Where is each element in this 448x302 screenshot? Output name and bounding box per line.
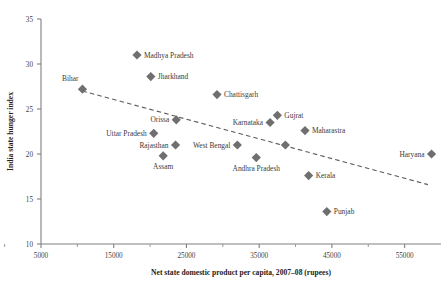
y-axis-tick-label: 20 — [26, 151, 34, 159]
data-point-marker — [212, 90, 221, 99]
data-point-label: Maharastra — [312, 126, 346, 135]
data-point-label: Andhra Pradesh — [233, 164, 281, 173]
x-axis-tick-label: 35000 — [250, 252, 268, 260]
y-axis-tick-label: 25 — [26, 106, 34, 114]
data-point-label: West Bengal — [193, 141, 230, 150]
x-axis-tick-label: 15000 — [105, 252, 123, 260]
data-point-marker — [304, 171, 313, 180]
data-point-marker — [233, 140, 242, 149]
data-point-marker — [322, 207, 331, 216]
data-point-label: Madhya Pradesh — [144, 51, 194, 60]
data-point-label: Karnataka — [233, 118, 264, 127]
data-point-label: Punjab — [334, 207, 355, 216]
data-point-label: Haryana — [400, 150, 426, 159]
data-point-label: Gujrat — [284, 111, 304, 120]
data-point-marker — [427, 149, 436, 158]
data-point-label: Chattisgarh — [224, 90, 258, 99]
data-point-label: Assam — [153, 162, 173, 171]
data-point-marker — [252, 153, 261, 162]
data-point-label: Jharkhand — [158, 72, 189, 81]
x-axis-title: Net state domestic product per capita, 2… — [151, 268, 331, 277]
data-point-marker — [159, 151, 168, 160]
data-point-marker — [265, 118, 274, 127]
data-point-marker — [300, 126, 309, 135]
data-point-marker — [273, 111, 282, 120]
data-point-marker — [171, 140, 180, 149]
scatter-plot: 1015202530355000150002500035000450005500… — [0, 0, 448, 302]
data-point-label: Kerala — [316, 171, 336, 180]
data-point-marker — [132, 50, 141, 59]
data-point-marker — [149, 129, 158, 138]
data-point-label: Rajasthan — [139, 141, 168, 150]
data-point-marker — [281, 140, 290, 149]
chart-figure: 1015202530355000150002500035000450005500… — [0, 0, 448, 302]
data-point-label: Bihar — [62, 74, 79, 83]
y-axis-tick-label: 10 — [26, 241, 34, 249]
y-axis-tick-label: 30 — [26, 61, 34, 69]
x-axis-tick-label: 55000 — [396, 252, 414, 260]
y-axis-title: India state hunger index — [6, 92, 15, 171]
data-point-marker — [146, 72, 155, 81]
data-point-label: Uttar Pradesh — [106, 129, 147, 138]
y-axis-tick-label: 35 — [26, 16, 34, 24]
y-axis-tick-label: 15 — [26, 196, 34, 204]
data-point-label: Orissa — [150, 115, 170, 124]
x-axis-tick-label: 5000 — [34, 252, 49, 260]
data-point-marker — [172, 115, 181, 124]
x-axis-tick-label: 25000 — [177, 252, 195, 260]
x-axis-tick-label: 45000 — [323, 252, 341, 260]
